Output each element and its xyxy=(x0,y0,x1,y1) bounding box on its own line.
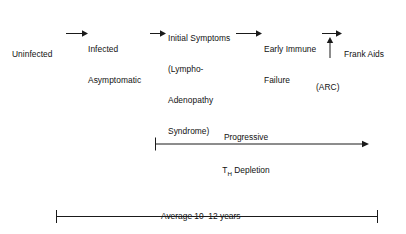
annotation-arc: (ARC) xyxy=(316,61,340,113)
stage-frank-aids-line-1: Frank Aids xyxy=(344,49,384,59)
stage-infected-asymptomatic-line-2: Asymptomatic xyxy=(88,75,141,85)
stage-infected-asymptomatic-line-1: Infected xyxy=(88,44,141,54)
stage-initial-symptoms-line-2: (Lympho- xyxy=(168,64,230,74)
hiv-progression-diagram: Uninfected Infected Asymptomatic Initial… xyxy=(0,0,406,234)
stage-uninfected-line-1: Uninfected xyxy=(12,49,53,59)
annotation-arc-label: (ARC) xyxy=(316,82,340,92)
stage-early-immune-failure-line-1: Early Immune xyxy=(264,44,316,54)
progressive-depletion-line-2: TH Depletion xyxy=(196,165,296,176)
progressive-depletion-line-1: Progressive xyxy=(196,132,296,143)
stage-frank-aids: Frank Aids xyxy=(344,28,384,80)
stage-initial-symptoms-line-1: Initial Symptoms xyxy=(168,33,230,43)
duration-label: Average 10–12 years xyxy=(158,211,243,221)
stage-early-immune-failure-line-2: Failure xyxy=(264,75,316,85)
stage-uninfected: Uninfected xyxy=(12,28,53,80)
arrow-early-failure-to-frank-aids xyxy=(322,30,342,36)
progressive-depletion-label: Progressive TH Depletion xyxy=(196,110,296,198)
arrow-infected-to-initial-symptoms xyxy=(150,30,166,36)
arrow-uninfected-to-infected xyxy=(66,30,88,36)
depletion-word: Depletion xyxy=(232,165,270,175)
arrow-arc-upward xyxy=(327,37,333,58)
stage-infected-asymptomatic: Infected Asymptomatic xyxy=(88,23,141,106)
arrow-initial-symptoms-to-early-failure xyxy=(236,30,262,36)
stage-initial-symptoms-line-3: Adenopathy xyxy=(168,95,230,105)
stage-early-immune-failure: Early Immune Failure xyxy=(264,23,316,106)
